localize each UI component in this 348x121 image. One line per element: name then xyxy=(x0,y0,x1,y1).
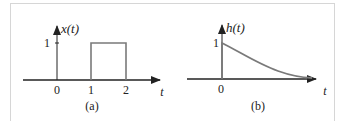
ytick-label-b: 1 xyxy=(213,36,219,50)
caption-a: (a) xyxy=(85,99,98,113)
function-label-a: x(t) xyxy=(60,21,79,36)
xtick-label-b-0: 0 xyxy=(218,82,224,96)
axis-var-a: t xyxy=(160,85,164,99)
panel-b: h(t) 1 0 t (b) xyxy=(187,20,327,113)
xtick-label-a-2: 2 xyxy=(123,83,129,97)
axis-var-b: t xyxy=(323,84,327,98)
caption-b: (b) xyxy=(251,99,265,113)
xtick-label-a-0: 0 xyxy=(54,83,60,97)
xtick-label-a-1: 1 xyxy=(88,83,94,97)
panel-a: x(t) 1 0 1 2 t (a) xyxy=(23,21,164,113)
pulse-signal xyxy=(91,43,126,80)
function-label-b: h(t) xyxy=(226,20,245,35)
exponential-signal xyxy=(222,43,312,79)
signals-figure: x(t) 1 0 1 2 t (a) h(t) 1 0 t (b) xyxy=(0,0,348,121)
ytick-label-a: 1 xyxy=(44,36,50,50)
